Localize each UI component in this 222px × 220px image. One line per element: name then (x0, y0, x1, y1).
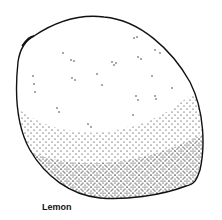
lemon-illustration (0, 0, 222, 200)
stipple-shading (10, 85, 210, 200)
figure-caption: Lemon (42, 202, 72, 212)
scattered-dots (32, 36, 172, 127)
